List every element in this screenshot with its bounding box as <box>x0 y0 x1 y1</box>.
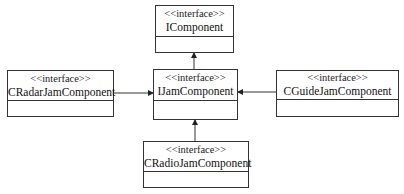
stereotype-label: <<interface>> <box>154 72 237 84</box>
class-name: IComponent <box>156 20 233 34</box>
class-header: <<interface>> IJamComponent <box>154 70 237 101</box>
class-box-ijamcomponent[interactable]: <<interface>> IJamComponent <box>153 69 238 120</box>
stereotype-label: <<interface>> <box>144 144 248 156</box>
class-box-cguidejamcomponent[interactable]: <<interface>> CGuideJamComponent <box>276 70 399 117</box>
class-header: <<interface>> CRadioJamComponent <box>144 142 248 172</box>
stereotype-label: <<interface>> <box>8 73 113 85</box>
stereotype-label: <<interface>> <box>156 8 233 20</box>
class-name: IJamComponent <box>154 84 237 98</box>
class-header: <<interface>> IComponent <box>156 6 233 37</box>
class-name: CRadioJamComponent <box>144 156 248 170</box>
class-name: CRadarJamComponent <box>8 85 113 99</box>
class-header: <<interface>> CRadarJamComponent <box>8 71 113 101</box>
class-header: <<interface>> CGuideJamComponent <box>277 71 398 100</box>
class-box-cradiojamcomponent[interactable]: <<interface>> CRadioJamComponent <box>143 141 249 188</box>
class-box-cradarjamcomponent[interactable]: <<interface>> CRadarJamComponent <box>7 70 114 117</box>
class-name: CGuideJamComponent <box>277 84 398 98</box>
stereotype-label: <<interface>> <box>277 72 398 84</box>
class-box-icomponent[interactable]: <<interface>> IComponent <box>155 5 234 53</box>
